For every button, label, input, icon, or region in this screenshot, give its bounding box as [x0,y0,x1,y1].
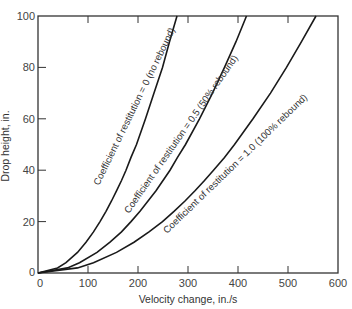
x-tick-400: 400 [229,277,247,289]
x-tick-0: 0 [37,277,43,289]
plot-frame [38,16,338,273]
y-axis-ticks [38,67,46,221]
y-tick-labels: 0 20 40 60 80 100 [17,10,35,278]
x-tick-labels: 0 100 200 300 400 500 600 [37,277,347,289]
y-axis-title: Drop height, in. [0,110,11,181]
y-tick-20: 20 [23,216,35,228]
x-tick-100: 100 [79,277,97,289]
curve-e05-50pct-rebound [38,16,247,273]
x-axis-title: Velocity change, in./s [139,293,238,305]
x-tick-500: 500 [279,277,297,289]
y-tick-40: 40 [23,164,35,176]
curve-label-e10: Coefficient of restitution = 1.0 (100% r… [161,91,310,235]
x-tick-300: 300 [179,277,197,289]
y-tick-60: 60 [23,113,35,125]
x-tick-200: 200 [129,277,147,289]
drop-height-chart: 0 100 200 300 400 500 600 0 20 40 60 80 … [0,0,352,309]
x-tick-600: 600 [329,277,347,289]
y-tick-80: 80 [23,61,35,73]
y-tick-100: 100 [17,10,35,22]
y-tick-0: 0 [29,266,35,278]
